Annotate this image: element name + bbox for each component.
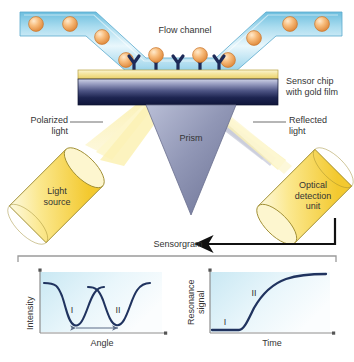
- prism-label: Prism: [161, 133, 221, 144]
- flow-channel-label: Flow channel: [130, 25, 240, 36]
- chart2-y-axis-label: Resonance signal: [186, 272, 208, 332]
- polarized-light-label: Polarized light: [2, 115, 68, 136]
- sensor-chip: [78, 70, 278, 105]
- light-source-label: Light source: [26, 186, 88, 207]
- chart2-annotation-I: I: [218, 317, 232, 328]
- chart1-annotation-I: I: [64, 305, 80, 316]
- gold-film-layer: [78, 70, 278, 79]
- chip-substrate: [78, 79, 278, 105]
- chart1-x-axis-label: Angle: [72, 338, 132, 349]
- chart-angle-scan: [38, 269, 167, 335]
- prism: [146, 105, 236, 215]
- sensor-chip-label: Sensor chip with gold film: [286, 76, 354, 97]
- chart2-annotation-II: II: [246, 288, 262, 299]
- reflected-light-label: Reflected light: [289, 115, 353, 136]
- sensorgram-label: Sensorgram: [138, 239, 218, 250]
- optical-detection-unit-label: Optical detection unit: [281, 180, 345, 212]
- chart1-annotation-II: II: [110, 305, 126, 316]
- sensorgram-bracket: [18, 256, 336, 262]
- chart2-x-axis-label: Time: [242, 338, 302, 349]
- spr-diagram: Flow channel Sensor chip with gold film …: [0, 0, 354, 362]
- chart1-y-axis-label: Intensity: [25, 276, 36, 330]
